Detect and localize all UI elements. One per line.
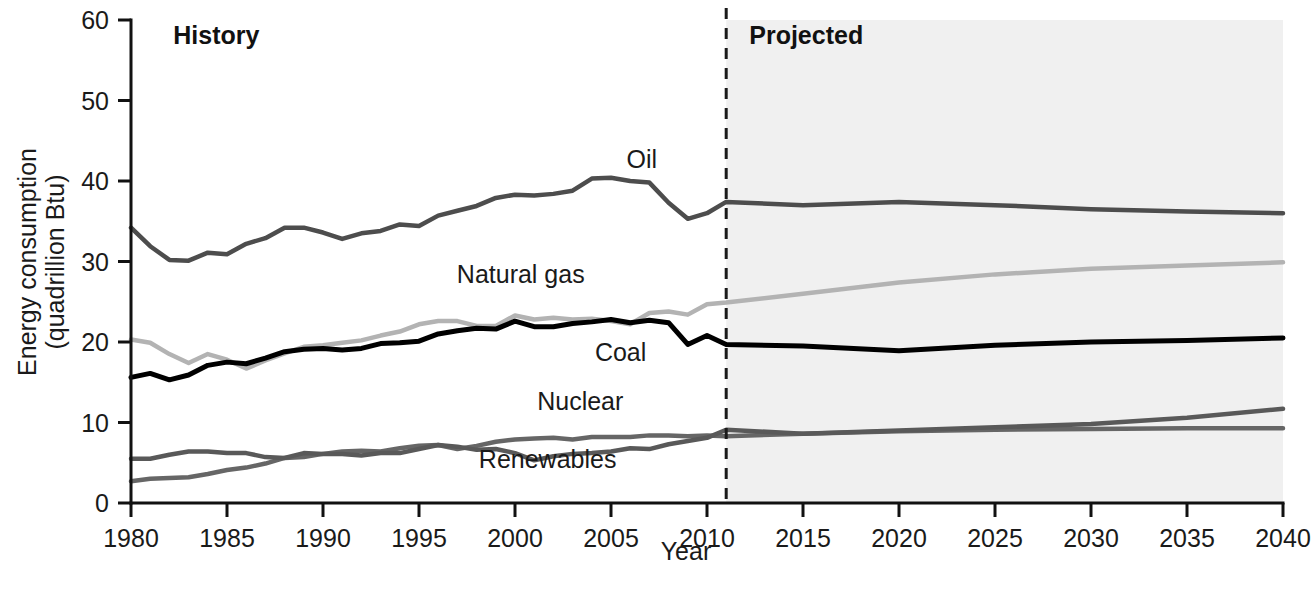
x-tick-label: 1985 <box>199 524 255 552</box>
x-tick-label: 2005 <box>583 524 639 552</box>
x-tick-label: 1990 <box>295 524 351 552</box>
chart-canvas: 1980198519901995200020052010201520202025… <box>0 0 1315 594</box>
series-label-nuclear: Nuclear <box>537 387 623 415</box>
period-label-projected: Projected <box>749 21 863 49</box>
x-tick-label: 2015 <box>775 524 831 552</box>
energy-consumption-chart: 1980198519901995200020052010201520202025… <box>0 0 1315 594</box>
x-axis-title: Year <box>661 537 712 565</box>
x-tick-label: 2040 <box>1255 524 1311 552</box>
x-tick-label: 1995 <box>391 524 447 552</box>
x-tick-label: 2025 <box>967 524 1023 552</box>
series-label-coal: Coal <box>595 338 646 366</box>
y-tick-label: 0 <box>95 489 109 517</box>
period-label-history: History <box>173 21 259 49</box>
y-axis-title-line1: Energy consumption <box>13 148 41 376</box>
y-tick-label: 50 <box>81 87 109 115</box>
series-label-renewables: Renewables <box>479 445 617 473</box>
x-tick-label: 2020 <box>871 524 927 552</box>
x-tick-label: 1980 <box>103 524 159 552</box>
y-tick-label: 60 <box>81 6 109 34</box>
y-tick-label: 20 <box>81 328 109 356</box>
y-tick-label: 30 <box>81 248 109 276</box>
x-tick-label: 2000 <box>487 524 543 552</box>
series-label-oil: Oil <box>626 145 657 173</box>
x-tick-label: 2035 <box>1159 524 1215 552</box>
x-tick-label: 2030 <box>1063 524 1119 552</box>
series-label-natural-gas: Natural gas <box>457 260 585 288</box>
y-axis-title-line2: (quadrillion Btu) <box>41 174 69 349</box>
y-tick-label: 40 <box>81 167 109 195</box>
y-tick-label: 10 <box>81 409 109 437</box>
